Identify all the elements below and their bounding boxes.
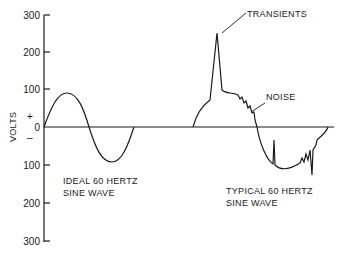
- tick-100-pos: 100: [23, 84, 40, 95]
- y-axis-label: VOLTS: [8, 112, 18, 142]
- noise-label: NOISE: [266, 92, 296, 102]
- transients-leader: [222, 13, 246, 33]
- transients-label: TRANSIENTS: [247, 9, 307, 19]
- tick-300-neg: 300: [23, 236, 40, 247]
- tick-100-neg: 100: [23, 160, 40, 171]
- tick-200-pos: 200: [23, 47, 40, 58]
- y-ticks: [44, 15, 50, 241]
- tick-0: 0: [34, 122, 40, 133]
- noise-leader: [251, 103, 265, 112]
- ideal-label-line1: IDEAL 60 HERTZ: [63, 176, 138, 186]
- tick-200-neg: 200: [23, 198, 40, 209]
- typical-sine-wave: [193, 33, 328, 175]
- tick-300-pos: 300: [23, 10, 40, 21]
- ideal-label-line2: SINE WAVE: [63, 188, 115, 198]
- plus-sign: +: [27, 111, 33, 122]
- typical-label-line2: SINE WAVE: [226, 198, 278, 208]
- typical-label-line1: TYPICAL 60 HERTZ: [226, 186, 313, 196]
- minus-sign: –: [27, 132, 33, 143]
- voltage-waveform-diagram: 300 200 100 0 100 200 300 VOLTS + – TRAN…: [0, 0, 340, 255]
